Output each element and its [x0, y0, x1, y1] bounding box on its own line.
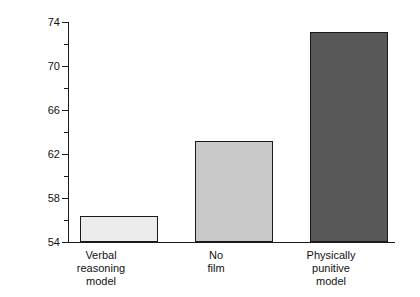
y-tick-74: [62, 22, 68, 23]
y-tick-minor-56: [64, 220, 68, 221]
x-category-label-2-line3: model: [286, 275, 376, 288]
y-tick-label-66: 66: [30, 105, 60, 116]
x-category-label-0-line3: model: [56, 275, 146, 288]
y-tick-66: [62, 110, 68, 111]
x-category-label-0: Verbal reasoning model: [56, 249, 146, 288]
y-tick-label-58: 58: [30, 193, 60, 204]
y-axis-line: [68, 22, 69, 243]
y-tick-minor-64: [64, 132, 68, 133]
x-category-label-2: Physically punitive model: [286, 249, 376, 288]
x-category-label-2-line1: Physically: [286, 249, 376, 262]
y-tick-58: [62, 198, 68, 199]
y-tick-54: [62, 242, 68, 243]
bar-chart-figure: Mean intensity of aggression 74 70 66 62…: [0, 0, 420, 297]
x-category-label-2-line2: punitive: [286, 262, 376, 275]
x-category-label-1-line1: No: [171, 249, 261, 262]
y-tick-label-74: 74: [30, 17, 60, 28]
y-tick-minor-72: [64, 44, 68, 45]
bar-verbal-reasoning-model: [80, 216, 158, 242]
y-tick-minor-60: [64, 176, 68, 177]
plot-area: 74 70 66 62 58 54: [68, 22, 395, 242]
bar-physically-punitive-model: [310, 32, 388, 242]
y-tick-minor-68: [64, 88, 68, 89]
x-category-label-0-line1: Verbal: [56, 249, 146, 262]
x-category-label-1-line2: film: [171, 262, 261, 275]
x-axis-line: [68, 242, 395, 243]
y-tick-label-54: 54: [30, 237, 60, 248]
y-tick-62: [62, 154, 68, 155]
y-tick-label-group: 74 70 66 62 58 54: [28, 22, 60, 243]
y-tick-label-70: 70: [30, 61, 60, 72]
x-category-label-1: No film: [171, 249, 261, 275]
y-tick-label-62: 62: [30, 149, 60, 160]
y-tick-70: [62, 66, 68, 67]
x-category-label-0-line2: reasoning: [56, 262, 146, 275]
bar-no-film: [195, 141, 273, 242]
